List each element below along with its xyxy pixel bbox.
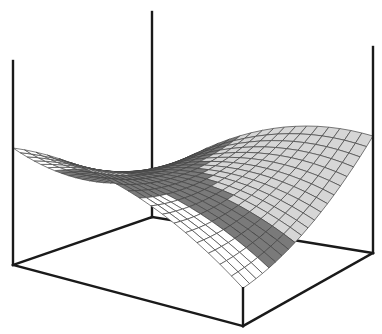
- saddle-surface-diagram: [0, 0, 382, 334]
- figure-canvas: Saddle surface in bounding box: [0, 0, 382, 334]
- box-edge-front-left: [13, 265, 243, 326]
- box-edge-back-left: [13, 217, 152, 265]
- saddle-surface-mesh: [13, 126, 373, 288]
